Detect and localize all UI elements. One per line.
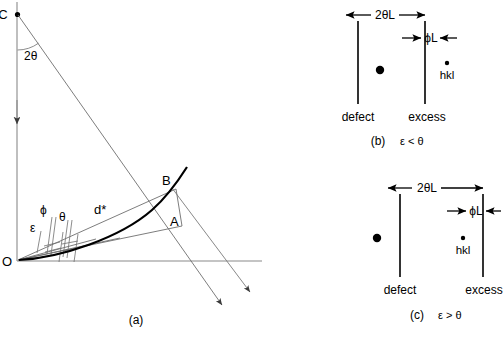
panel-b-caption-index: (b) (371, 134, 386, 148)
panel-c-dim-phi-label: ϕL (469, 204, 483, 218)
panel-b-hkl-spot (445, 61, 449, 65)
point-o-label: O (2, 254, 12, 269)
panel-b-dim-two-theta-label: 2θL (375, 8, 395, 22)
point-b-label: B (162, 173, 171, 188)
angle-two-theta-label: 2θ (24, 49, 38, 63)
ray-b-diffracted (172, 188, 250, 292)
angle-phi-label: ϕ (40, 203, 47, 217)
point-a-label: A (170, 214, 179, 229)
panel-c-hkl-label: hkl (456, 244, 471, 256)
panel-b-caption-condition: ε < θ (400, 135, 424, 147)
panel-b-dim-phi-label: ϕL (424, 31, 438, 45)
figure-root: C 2θ (0, 0, 503, 337)
tick-phi-leader (47, 217, 52, 254)
panel-b: 2θL ϕL hkl defect excess (b) ε < θ (342, 8, 457, 148)
panel-b-defect-label: defect (342, 110, 375, 124)
panel-b-defect-spot (376, 66, 384, 74)
angle-epsilon-label: ε (30, 221, 36, 235)
vector-dstar-label: d* (94, 202, 106, 217)
panel-c-excess-label: excess (465, 283, 502, 297)
ray-o-to-b (18, 189, 176, 260)
tick-vertical-2 (59, 232, 63, 262)
panel-b-hkl-label: hkl (440, 69, 455, 81)
panel-c-defect-label: defect (384, 283, 417, 297)
angle-arc-3 (62, 241, 78, 244)
figure-canvas: C 2θ (0, 0, 503, 337)
panel-c-defect-spot (373, 234, 381, 242)
point-c-label: C (0, 7, 8, 22)
angle-theta-label: θ (59, 210, 66, 224)
panel-c-hkl-spot (461, 236, 465, 240)
panel-a-caption: (a) (129, 313, 144, 327)
panel-c-caption-condition: ε > θ (438, 309, 462, 321)
panel-c-dim-two-theta-label: 2θL (417, 181, 437, 195)
panel-c-caption-index: (c) (410, 308, 424, 322)
panel-a: C 2θ (0, 2, 262, 327)
panel-b-excess-label: excess (408, 110, 445, 124)
panel-c: 2θL ϕL hkl defect excess (c) ε > θ (373, 181, 503, 322)
